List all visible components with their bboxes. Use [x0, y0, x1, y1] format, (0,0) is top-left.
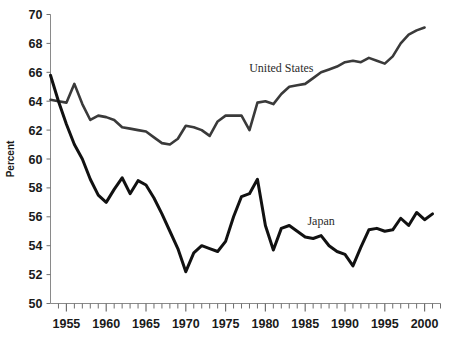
y-axis-tick-label: 50: [29, 297, 43, 311]
y-axis-tick-label: 66: [29, 66, 43, 80]
series-layer: [51, 28, 433, 272]
x-axis-tick-label: 1955: [53, 317, 81, 331]
y-axis-tick-label: 58: [29, 181, 43, 195]
x-axis-tick-label: 1960: [92, 317, 120, 331]
series-label-united-states: United States: [249, 61, 314, 75]
x-axis-tick-label: 1975: [212, 317, 240, 331]
x-axis-tick-label: 1980: [251, 317, 279, 331]
y-axis-tick-label: 60: [29, 153, 43, 167]
y-axis-tick-label: 56: [29, 210, 43, 224]
x-axis-tick-label: 2000: [411, 317, 439, 331]
x-axis-tick-label: 1995: [371, 317, 399, 331]
y-axis-tick-label: 62: [29, 124, 43, 138]
x-axis: 1955196019651970197519801985199019952000: [51, 304, 441, 331]
y-axis-tick-label: 64: [29, 95, 43, 109]
y-axis-tick-label: 70: [29, 8, 43, 22]
line-chart: 5052545658606264666870 19551960196519701…: [0, 0, 456, 344]
x-axis-tick-label: 1990: [331, 317, 359, 331]
y-axis-title: Percent: [5, 140, 16, 177]
series-label-japan: Japan: [307, 214, 334, 228]
x-axis-tick-label: 1985: [291, 317, 319, 331]
series-line-united-states: [51, 28, 425, 145]
series-line-japan: [51, 75, 433, 272]
y-axis: 5052545658606264666870: [29, 8, 51, 311]
x-axis-tick-label: 1965: [132, 317, 160, 331]
y-axis-tick-label: 52: [29, 268, 43, 282]
y-axis-tick-label: 68: [29, 37, 43, 51]
y-axis-tick-label: 54: [29, 239, 43, 253]
chart-container: 5052545658606264666870 19551960196519701…: [0, 0, 456, 344]
x-axis-tick-label: 1970: [172, 317, 200, 331]
y-axis-title-label: Percent: [5, 140, 16, 177]
